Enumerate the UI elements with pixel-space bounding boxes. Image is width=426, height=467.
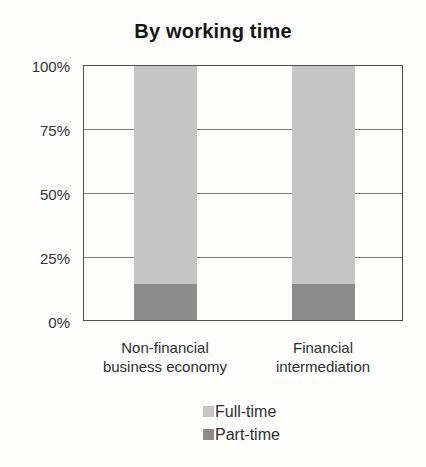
chart-title: By working time (0, 20, 426, 43)
legend-label-part-time: Part-time (215, 426, 280, 444)
y-tick-75: 75% (0, 122, 70, 139)
bar-non-financial (134, 66, 197, 320)
bar-financial (292, 66, 355, 320)
full-time-swatch-icon (203, 406, 214, 417)
y-tick-25: 25% (0, 250, 70, 267)
part-time-swatch-icon (203, 429, 214, 440)
plot-area (83, 65, 403, 321)
legend-item-part-time: Part-time (203, 425, 280, 444)
full-time-segment (134, 66, 197, 284)
category-label-financial: Financial intermediation (248, 338, 398, 376)
y-tick-50: 50% (0, 186, 70, 203)
legend-label-full-time: Full-time (215, 403, 276, 421)
part-time-segment (292, 284, 355, 320)
y-tick-0: 0% (0, 314, 70, 331)
working-time-chart: By working time 100% 75% 50% 25% 0% Non-… (0, 0, 426, 467)
legend-item-full-time: Full-time (203, 402, 280, 421)
category-label-non-financial: Non-financial business economy (90, 338, 240, 376)
y-tick-100: 100% (0, 58, 70, 75)
part-time-segment (134, 284, 197, 320)
legend: Full-time Part-time (203, 402, 280, 444)
full-time-segment (292, 66, 355, 284)
